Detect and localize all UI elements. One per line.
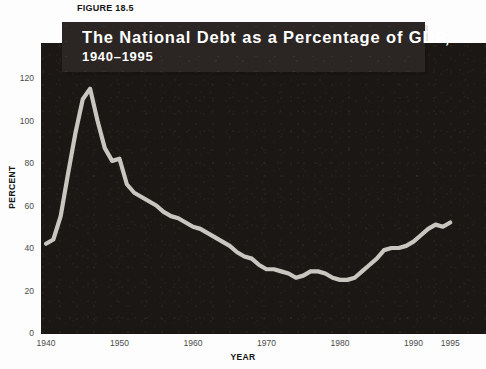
x-axis-title: YEAR (0, 352, 486, 362)
y-tick-20: 20 (8, 286, 34, 296)
y-tick-0: 0 (8, 328, 34, 338)
y-tick-40: 40 (8, 243, 34, 253)
figure-number-label: FIGURE 18.5 (77, 3, 134, 13)
chart-title-primary: The National Debt as a Percentage of GDP… (82, 28, 450, 47)
x-tick-1995: 1995 (430, 338, 470, 348)
x-tick-1990: 1990 (394, 338, 434, 348)
x-tick-1940: 1940 (26, 338, 66, 348)
debt-percentage-line (46, 89, 450, 280)
x-tick-1970: 1970 (247, 338, 287, 348)
chart-title-years: 1940–1995 (82, 49, 153, 64)
x-tick-1980: 1980 (320, 338, 360, 348)
y-tick-100: 100 (8, 116, 34, 126)
figure-container: FIGURE 18.5 The National Debt as a Perce… (0, 0, 486, 369)
chart-title-banner: The National Debt as a Percentage of GDP… (62, 22, 425, 72)
y-axis-title: PERCENT (7, 157, 17, 217)
x-tick-1960: 1960 (173, 338, 213, 348)
y-tick-120: 120 (8, 73, 34, 83)
x-tick-1950: 1950 (100, 338, 140, 348)
debt-line-chart-svg (41, 43, 486, 334)
chart-plot-area (41, 43, 486, 334)
